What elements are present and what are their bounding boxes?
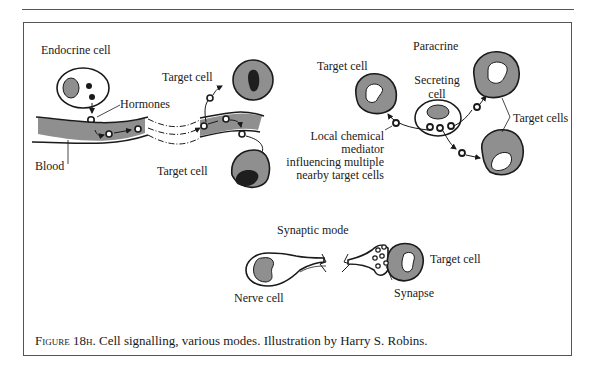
synapse-label: Synapse: [394, 287, 434, 300]
hormones-label: Hormones: [120, 98, 170, 111]
secreting-cell-label-2: cell: [409, 88, 465, 101]
paracrine-target-left-label: Target cell: [317, 60, 368, 73]
blood-label: Blood: [35, 160, 64, 173]
synaptic-target-cell-label: Target cell: [430, 253, 481, 266]
endocrine-diagram: [32, 60, 273, 187]
target-cell-bottom-label: Target cell: [157, 165, 208, 178]
nerve-cell-label: Nerve cell: [234, 292, 284, 305]
figure-caption: Figure 18h. Cell signalling, various mod…: [35, 333, 428, 349]
figure-number: Figure 18h.: [35, 333, 96, 348]
target-cell-top-label: Target cell: [162, 71, 213, 84]
synaptic-diagram: [246, 244, 423, 287]
secreting-cell-label-1: Secreting: [409, 74, 465, 87]
caption-text: Cell signalling, various modes. Illustra…: [96, 333, 428, 348]
mediator-line-4: nearby target cells: [264, 169, 384, 182]
synaptic-mode-title: Synaptic mode: [277, 224, 349, 237]
endocrine-cell-title: Endocrine cell: [41, 44, 111, 57]
paracrine-title: Paracrine: [413, 40, 458, 53]
target-cells-label: Target cells: [513, 112, 568, 125]
